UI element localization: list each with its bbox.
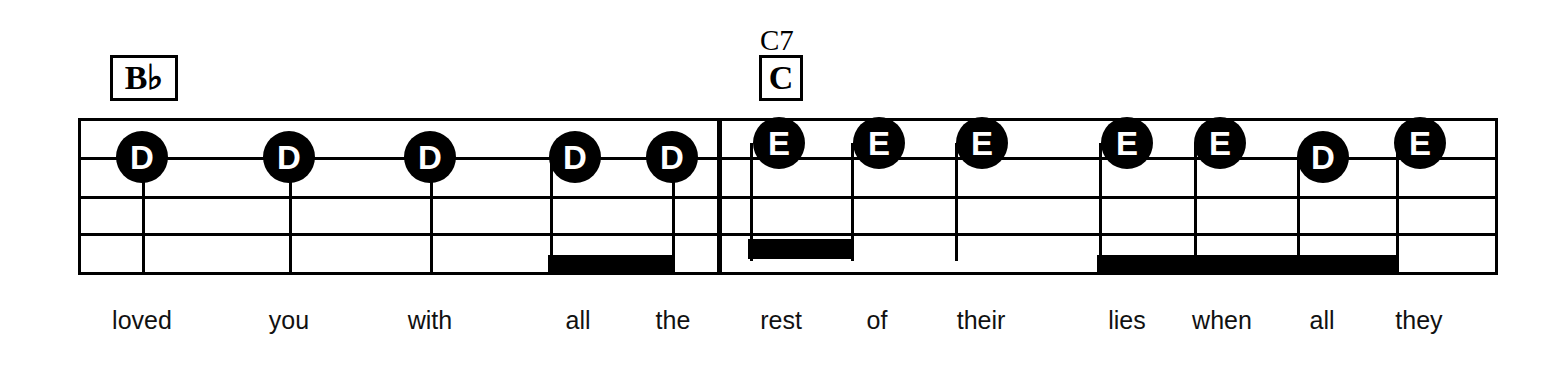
lyric-word: of — [867, 308, 888, 333]
lyric-word: you — [269, 308, 309, 333]
beam-rest-of — [748, 239, 853, 259]
note-stem — [955, 143, 958, 261]
notehead[interactable]: E — [1394, 117, 1446, 169]
lyric-word: loved — [112, 308, 172, 333]
notehead[interactable]: D — [1297, 131, 1349, 183]
beam-lies-all — [1097, 255, 1398, 274]
lyric-word: rest — [760, 308, 802, 333]
notehead[interactable]: E — [956, 117, 1008, 169]
notehead[interactable]: D — [116, 131, 168, 183]
notehead[interactable]: E — [1194, 117, 1246, 169]
lyric-word: when — [1192, 308, 1252, 333]
notehead[interactable]: E — [753, 117, 805, 169]
notehead[interactable]: E — [853, 117, 905, 169]
notehead[interactable]: D — [646, 131, 698, 183]
music-notation-sheet: C7 B♭ C D D D D D E E E E E D E loved yo… — [0, 0, 1550, 365]
lyric-word: lies — [1108, 308, 1146, 333]
notehead[interactable]: D — [404, 131, 456, 183]
lyric-word: all — [565, 308, 590, 333]
beam-all-the — [548, 255, 674, 272]
notehead[interactable]: D — [263, 131, 315, 183]
barline-measure-1 — [717, 118, 722, 275]
staff-edge-right — [1495, 118, 1498, 275]
notehead[interactable]: D — [549, 131, 601, 183]
lyric-word: their — [957, 308, 1006, 333]
chord-label-c7: C7 — [760, 26, 794, 55]
chord-box-c[interactable]: C — [759, 55, 803, 101]
lyric-word: the — [656, 308, 691, 333]
notehead[interactable]: E — [1101, 117, 1153, 169]
lyric-word: they — [1395, 308, 1442, 333]
staff-edge-left — [78, 118, 81, 275]
chord-box-bb[interactable]: B♭ — [110, 55, 178, 101]
lyric-word: all — [1309, 308, 1334, 333]
lyric-word: with — [408, 308, 452, 333]
